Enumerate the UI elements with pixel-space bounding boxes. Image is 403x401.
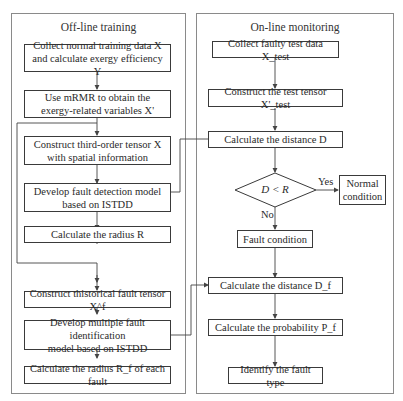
step-text: with spatial information [34, 151, 161, 164]
calculate-distance-step: Calculate the distance D [208, 131, 343, 148]
step-text: Collect normal training data X [28, 39, 167, 52]
step-text: Identify the fault type [232, 363, 319, 389]
step-text: condition [343, 190, 383, 203]
step-text: Develop fault detection model [34, 185, 161, 198]
no-label: No [261, 209, 274, 220]
step-text: Calculate the radius R [51, 228, 144, 241]
calculate-fault-radius-step: Calculate the radius R_f of each fault [24, 366, 171, 384]
yes-label: Yes [318, 176, 333, 187]
offline-panel-title: Off-line training [11, 21, 186, 33]
step-text: model based on ISTDD [28, 342, 167, 355]
step-text: Collect faulty test data X_test [216, 37, 335, 63]
calculate-fault-distance-step: Calculate the distance D_f [208, 277, 343, 294]
construct-test-tensor-step: Construct the test tensor X'_test [208, 89, 343, 107]
step-text: exergy-related variables X' [41, 104, 154, 117]
normal-condition-step: Normalcondition [339, 175, 386, 205]
identify-fault-type-step: Identify the fault type [228, 367, 323, 384]
fault-detection-model-step: Develop fault detection modelbased on IS… [24, 183, 171, 212]
step-text: Calculate the distance D_f [220, 279, 331, 292]
step-text: Develop multiple fault identification [28, 316, 167, 342]
step-text: and calculate exergy efficiency Y [28, 52, 167, 78]
step-text: Construct third-order tensor X [34, 138, 161, 151]
step-text: Construct thistorical fault tensor X^f [28, 287, 167, 313]
online-panel-title: On-line monitoring [196, 21, 394, 33]
collect-test-data-step: Collect faulty test data X_test [212, 41, 339, 58]
mrmr-selection-step: Use mRMR to obtain theexergy-related var… [24, 90, 171, 118]
step-text: Fault condition [243, 233, 307, 246]
step-text: Calculate the probability P_f [215, 321, 336, 334]
decision-d-less-than-r: D < R [245, 183, 305, 195]
step-text: based on ISTDD [34, 198, 161, 211]
fault-condition-step: Fault condition [237, 230, 313, 248]
multi-fault-model-step: Develop multiple fault identificationmod… [24, 320, 171, 350]
construct-fault-tensor-step: Construct thistorical fault tensor X^f [24, 291, 171, 308]
step-text: Construct the test tensor X'_test [212, 85, 339, 111]
calculate-probability-step: Calculate the probability P_f [208, 319, 343, 336]
step-text: Calculate the distance D [224, 133, 326, 146]
collect-normal-data-step: Collect normal training data Xand calcul… [24, 44, 171, 72]
step-text: Calculate the radius R_f of each fault [28, 362, 167, 388]
calculate-radius-step: Calculate the radius R [24, 226, 171, 243]
step-text: Use mRMR to obtain the [41, 91, 154, 104]
step-text: Normal [343, 177, 383, 190]
construct-tensor-step: Construct third-order tensor Xwith spati… [24, 136, 171, 165]
